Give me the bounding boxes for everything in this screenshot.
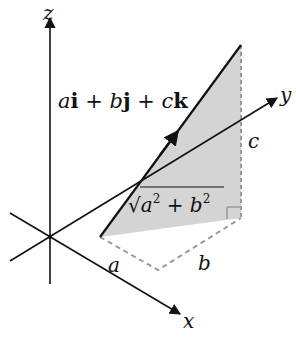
x-axis-label: x (183, 309, 194, 333)
vector-diagram: z y x ai + bj + ck c a b √a2 + b2 (0, 0, 296, 338)
side-c-label: c (248, 129, 259, 153)
side-b-label: b (198, 251, 211, 275)
side-a-label: a (108, 253, 120, 277)
origin-point (48, 235, 52, 239)
z-axis-label: z (42, 1, 54, 25)
sqrt-label: √a2 + b2 (128, 192, 210, 217)
diagram-canvas: z y x ai + bj + ck c a b √a2 + b2 (0, 0, 296, 338)
y-axis-label: y (279, 83, 292, 107)
vector-label: ai + bj + ck (58, 88, 188, 113)
